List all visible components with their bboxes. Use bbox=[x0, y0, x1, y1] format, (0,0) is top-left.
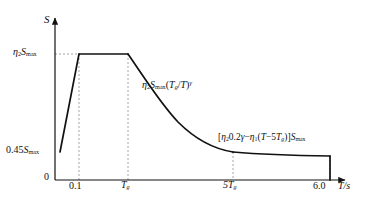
spectrum-plot bbox=[0, 0, 370, 205]
x-axis-title: T/s bbox=[338, 181, 350, 191]
5tg-subscript: g bbox=[234, 183, 237, 190]
y-axis-title: S bbox=[44, 14, 50, 25]
start-value: 0.45 bbox=[6, 144, 24, 155]
tail-const: 0.2 bbox=[229, 132, 241, 142]
tail-s-sub: max bbox=[295, 136, 305, 142]
origin-label: 0 bbox=[44, 172, 49, 182]
curve-segment-linear-tail bbox=[233, 152, 330, 156]
x-tick-label-0-1: 0.1 bbox=[69, 181, 82, 191]
y-tick-label-plateau: η2Smax bbox=[13, 47, 37, 58]
x-axis-title-text: T/s bbox=[338, 180, 350, 191]
x-tick-label-tg: Tg bbox=[121, 180, 130, 191]
spectrum-curve bbox=[60, 54, 330, 180]
5tg-symbol: 5T bbox=[223, 179, 234, 190]
x-tick-label-6-0: 6.0 bbox=[313, 181, 326, 191]
x-tick-label-5tg: 5Tg bbox=[223, 180, 237, 191]
annotation-decay-formula: η2Smax(Tg/T)γ bbox=[142, 80, 192, 91]
decay-gamma-exponent: γ bbox=[189, 79, 192, 86]
annotation-tail-formula: [η20.2γ−η1(T−5Tg)]Smax bbox=[218, 133, 306, 143]
dashed-guides bbox=[55, 54, 330, 180]
response-spectrum-figure: S T/s η2Smax 0.45Smax 0 0.1 Tg 5Tg 6.0 η… bbox=[0, 0, 370, 205]
s-subscript: max bbox=[26, 50, 37, 57]
y-tick-label-start: 0.45Smax bbox=[6, 145, 39, 156]
s-subscript-start: max bbox=[29, 148, 40, 155]
decay-s-sub: max bbox=[155, 83, 166, 90]
curve-segment-rise bbox=[60, 54, 79, 152]
tg-subscript: g bbox=[127, 183, 130, 190]
